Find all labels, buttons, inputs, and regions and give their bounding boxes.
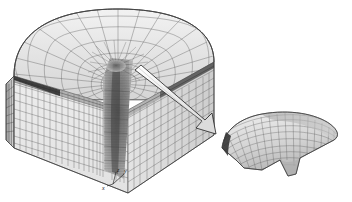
left-face-mesh	[6, 76, 14, 148]
axis-label-y: y	[123, 168, 127, 174]
axis-label-x: x	[101, 185, 105, 191]
figure-canvas: z y x	[0, 0, 352, 202]
main-mesh-body	[3, 0, 233, 193]
detail-inset-mesh	[222, 111, 337, 176]
mesh-figure-svg: z y x	[0, 0, 352, 202]
